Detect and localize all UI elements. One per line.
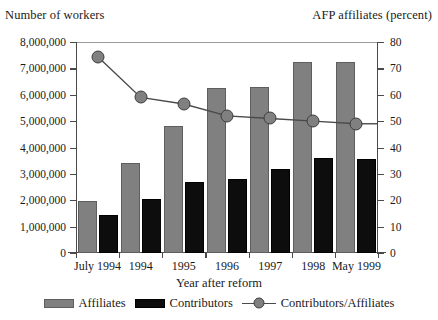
left-tick-label: 5,000,000: [2, 115, 66, 127]
right-tick-label: 60: [390, 89, 402, 101]
right-tick: [377, 68, 384, 69]
bars-layer: [76, 42, 378, 253]
right-axis-title: AFP affiliates (percent): [312, 8, 432, 23]
right-tick-label: 80: [390, 36, 402, 48]
bar-group: [335, 42, 378, 253]
x-tick: [292, 252, 293, 258]
bar-contributors: [99, 215, 118, 253]
legend-swatch-contributors: [135, 299, 165, 308]
bar-affiliates: [121, 163, 140, 253]
x-tick: [119, 252, 120, 258]
bar-contributors: [314, 158, 333, 253]
right-tick: [377, 174, 384, 175]
x-category-label: 1996: [215, 259, 239, 274]
left-tick-label: 2,000,000: [2, 194, 66, 206]
bar-contributors: [142, 199, 161, 253]
bar-group: [119, 42, 162, 253]
bar-group: [162, 42, 205, 253]
right-tick-label: 50: [390, 115, 402, 127]
legend-label: Contributors: [170, 296, 233, 311]
bar-contributors: [185, 182, 204, 253]
right-tick-label: 0: [390, 247, 396, 259]
chart-container: Number of workers AFP affiliates (percen…: [0, 0, 438, 320]
x-tick: [335, 252, 336, 258]
x-category-label: 1998: [301, 259, 325, 274]
bar-group: [76, 42, 119, 253]
left-tick-label: 4,000,000: [2, 142, 66, 154]
left-tick-label: 7,000,000: [2, 62, 66, 74]
right-tick-label: 30: [390, 168, 402, 180]
bar-contributors: [357, 159, 376, 253]
right-tick: [377, 42, 384, 43]
x-axis-title: Year after reform: [0, 276, 438, 291]
x-tick: [162, 252, 163, 258]
left-tick-label: 1,000,000: [2, 221, 66, 233]
right-tick-label: 20: [390, 194, 402, 206]
legend-swatch-affiliates: [44, 299, 74, 308]
legend-item[interactable]: Affiliates: [44, 296, 126, 311]
legend-label: Affiliates: [79, 296, 126, 311]
right-tick-label: 70: [390, 62, 402, 74]
right-tick: [377, 148, 384, 149]
bar-affiliates: [293, 62, 312, 253]
x-category-label: 1995: [172, 259, 196, 274]
bar-group: [205, 42, 248, 253]
right-tick: [377, 227, 384, 228]
right-tick: [377, 121, 384, 122]
left-tick-label: 3,000,000: [2, 168, 66, 180]
legend-item[interactable]: Contributors: [135, 296, 233, 311]
chart-legend: AffiliatesContributorsContributors/Affil…: [0, 296, 438, 311]
legend-swatch-ratio-line: [242, 298, 276, 309]
bar-group: [292, 42, 335, 253]
bar-group: [249, 42, 292, 253]
bar-affiliates: [336, 62, 355, 253]
legend-marker-dot: [253, 298, 264, 309]
bar-affiliates: [78, 201, 97, 253]
x-category-label: July 1994: [74, 259, 121, 274]
left-tick-label: 0: [2, 247, 66, 259]
legend-label: Contributors/Affiliates: [281, 296, 395, 311]
x-tick: [378, 252, 379, 258]
x-category-label: 1994: [129, 259, 153, 274]
bar-affiliates: [250, 87, 269, 253]
left-axis-title: Number of workers: [5, 8, 105, 23]
left-tick-label: 6,000,000: [2, 89, 66, 101]
right-tick: [377, 200, 384, 201]
x-category-label: May 1999: [332, 259, 381, 274]
bar-affiliates: [207, 88, 226, 253]
bar-contributors: [271, 169, 290, 253]
x-tick: [205, 252, 206, 258]
x-tick: [249, 252, 250, 258]
x-tick: [76, 252, 77, 258]
x-category-label: 1997: [258, 259, 282, 274]
right-tick-label: 10: [390, 221, 402, 233]
bar-affiliates: [164, 126, 183, 253]
bar-contributors: [228, 179, 247, 253]
left-tick-label: 8,000,000: [2, 36, 66, 48]
right-tick-label: 40: [390, 142, 402, 154]
right-tick: [377, 95, 384, 96]
legend-item[interactable]: Contributors/Affiliates: [242, 296, 395, 311]
